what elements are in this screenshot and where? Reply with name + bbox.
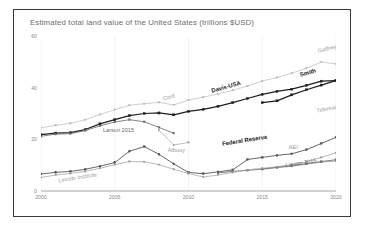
series-label-aei: AEI xyxy=(289,144,298,150)
y-tick-label: 20 xyxy=(23,136,37,142)
x-tick-label: 2005 xyxy=(104,194,126,200)
x-tick-label: 2010 xyxy=(178,194,200,200)
series-label-federal-reserve: Federal Reserve xyxy=(222,134,269,147)
x-tick-label: 2000 xyxy=(30,194,52,200)
series-label-tideman: Tideman xyxy=(316,104,336,114)
series-label-albouy: Albouy xyxy=(168,147,185,153)
series-label-smith: Smith xyxy=(299,67,317,77)
series-label-gaffney: Gaffney xyxy=(317,43,336,54)
series-albouy xyxy=(158,130,189,146)
series-label-lincoln-institute: Lincoln Institute xyxy=(58,171,97,183)
x-tick-label: 2020 xyxy=(325,194,347,200)
chart-frame: Estimated total land value of the United… xyxy=(13,9,351,217)
x-tick-label: 2015 xyxy=(251,194,273,200)
series-label-larson-2015: Larson 2015 xyxy=(103,127,134,133)
series-label-larson-2015: Larson 2015 xyxy=(285,157,317,168)
chart-svg: GaffneyCordDavis-USASmithTidemanLarson 2… xyxy=(41,36,336,205)
y-tick-label: 40 xyxy=(23,85,37,91)
series-label-cord: Cord xyxy=(162,92,175,101)
chart-title: Estimated total land value of the United… xyxy=(30,18,254,27)
plot-area: GaffneyCordDavis-USASmithTidemanLarson 2… xyxy=(41,36,336,205)
gridlines xyxy=(41,36,336,191)
series-labels: GaffneyCordDavis-USASmithTidemanLarson 2… xyxy=(58,43,336,183)
y-tick-label: 60 xyxy=(23,33,37,39)
